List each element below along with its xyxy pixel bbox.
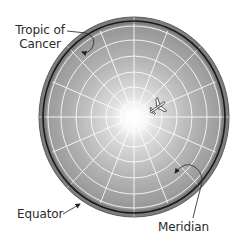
tropic-of-cancer-label: Tropic of Cancer [8, 23, 72, 51]
tropic-label-line2: Cancer [8, 37, 72, 51]
pole-glow [112, 96, 156, 140]
polar-globe-diagram: Tropic of Cancer Equator Meridian [0, 0, 246, 243]
equator-label: Equator [17, 207, 63, 221]
meridian-label: Meridian [158, 220, 209, 234]
equator-leader [63, 204, 80, 214]
tropic-label-line1: Tropic of [8, 23, 72, 37]
